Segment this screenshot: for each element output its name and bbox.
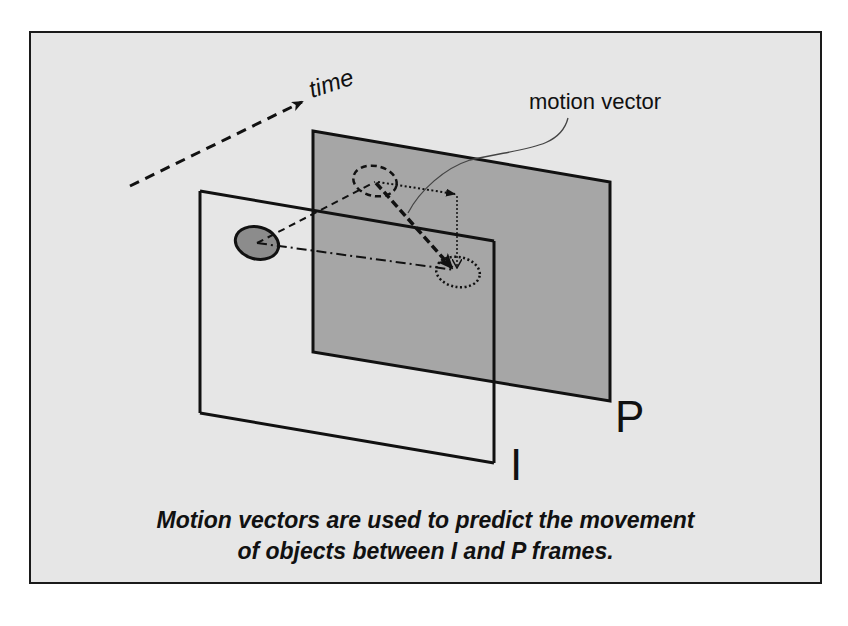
- caption-line-1: Motion vectors are used to predict the m…: [29, 505, 822, 536]
- caption-line-2: of objects between I and P frames.: [29, 536, 822, 567]
- i-frame-label: I: [510, 440, 522, 489]
- time-arrow: [130, 102, 302, 186]
- motion-vector-label: motion vector: [529, 89, 661, 114]
- p-frame-label: P: [615, 392, 644, 441]
- caption: Motion vectors are used to predict the m…: [29, 505, 822, 567]
- time-label: time: [305, 63, 356, 103]
